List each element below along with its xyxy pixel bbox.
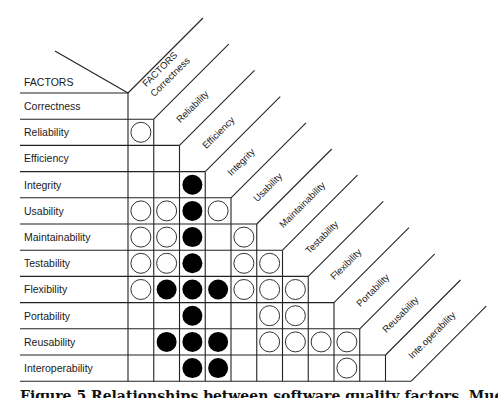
open-circle-icon <box>157 201 177 221</box>
open-circle-icon <box>131 122 151 142</box>
open-circle-icon <box>260 332 280 352</box>
row-label-portability: Portability <box>24 310 70 322</box>
open-circle-icon <box>311 332 331 352</box>
filled-circle-icon <box>157 332 177 352</box>
row-label-testability: Testability <box>24 257 70 269</box>
row-label-interoperability: Interoperability <box>24 362 93 374</box>
row-header-label: FACTORS <box>24 76 73 88</box>
open-circle-icon <box>285 332 305 352</box>
filled-circle-icon <box>182 253 202 273</box>
filled-circle-icon <box>182 280 202 300</box>
row-label-integrity: Integrity <box>24 179 61 191</box>
open-circle-icon <box>234 227 254 247</box>
filled-circle-icon <box>182 175 202 195</box>
row-label-reliability: Reliability <box>24 126 69 138</box>
figure-caption: Figure 5 Relationships between software … <box>20 388 498 398</box>
filled-circle-icon <box>182 227 202 247</box>
open-circle-icon <box>157 253 177 273</box>
row-label-maintainability: Maintainability <box>24 231 91 243</box>
row-label-usability: Usability <box>24 205 64 217</box>
open-circle-icon <box>234 253 254 273</box>
open-circle-icon <box>157 227 177 247</box>
open-circle-icon <box>337 332 357 352</box>
row-label-efficiency: Efficiency <box>24 152 69 164</box>
open-circle-icon <box>131 280 151 300</box>
open-circle-icon <box>208 201 228 221</box>
open-circle-icon <box>285 280 305 300</box>
open-circle-icon <box>131 201 151 221</box>
open-circle-icon <box>131 227 151 247</box>
filled-circle-icon <box>182 201 202 221</box>
open-circle-icon <box>260 306 280 326</box>
filled-circle-icon <box>182 358 202 378</box>
filled-circle-icon <box>182 332 202 352</box>
open-circle-icon <box>131 253 151 273</box>
row-label-correctness: Correctness <box>24 100 81 112</box>
filled-circle-icon <box>208 332 228 352</box>
filled-circle-icon <box>157 280 177 300</box>
open-circle-icon <box>337 358 357 378</box>
filled-circle-icon <box>208 280 228 300</box>
open-circle-icon <box>234 280 254 300</box>
open-circle-icon <box>285 306 305 326</box>
open-circle-icon <box>260 280 280 300</box>
filled-circle-icon <box>182 306 202 326</box>
open-circle-icon <box>260 253 280 273</box>
row-label-flexibility: Flexibility <box>24 283 67 295</box>
row-label-reusability: Reusability <box>24 336 75 348</box>
filled-circle-icon <box>208 358 228 378</box>
quality-factors-matrix: FACTORSCorrectnessReliabilityEfficiencyI… <box>0 0 498 398</box>
